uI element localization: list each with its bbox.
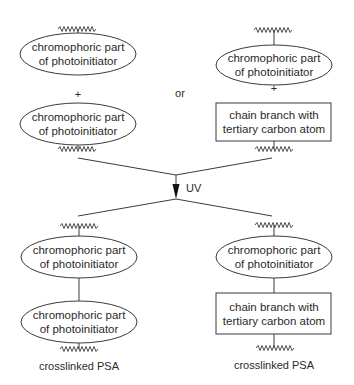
polymer-chain-icon [58, 145, 96, 152]
chromophore-node: chromophoric part of photoinitiator [20, 33, 136, 75]
node-label: chromophoric part [33, 244, 126, 256]
node-label: of photoinitiator [235, 258, 314, 270]
polymer-chain-icon [60, 224, 98, 237]
chain-branch-node: chain branch with tertiary carbon atom [216, 103, 331, 141]
node-label: chromophoric part [32, 41, 125, 53]
node-label: chain branch with [229, 109, 319, 121]
node-label: of photoinitiator [40, 323, 119, 335]
chromophore-node: chromophoric part of photoinitiator [216, 45, 332, 85]
polymer-chain-icon [60, 343, 98, 352]
chromophore-node: chromophoric part of photoinitiator [21, 301, 137, 343]
bottom-left-group: chromophoric part of photoinitiator chro… [21, 224, 137, 373]
top-right-group: chromophoric part of photoinitiator + ch… [216, 28, 332, 152]
chromophore-node: chromophoric part of photoinitiator [21, 236, 137, 278]
node-label: chromophoric part [228, 244, 321, 256]
node-label: chromophoric part [228, 52, 321, 64]
polymer-chain-icon [255, 141, 293, 152]
chromophore-node: chromophoric part of photoinitiator [20, 103, 136, 145]
chromophore-node: chromophoric part of photoinitiator [216, 236, 332, 278]
node-label: chromophoric part [32, 111, 125, 123]
polymer-chain-icon [254, 28, 292, 46]
polymer-chain-icon [58, 27, 96, 34]
polymer-chain-icon [255, 223, 293, 237]
plus-sign: + [75, 88, 81, 100]
polymer-chain-icon [256, 334, 294, 351]
node-label: chromophoric part [33, 309, 126, 321]
node-label: of photoinitiator [39, 55, 118, 67]
plus-sign: + [271, 82, 277, 94]
chain-branch-node: chain branch with tertiary carbon atom [216, 293, 331, 334]
reaction-arrow: UV [78, 158, 272, 216]
node-label: tertiary carbon atom [223, 315, 325, 327]
node-label: of photoinitiator [235, 66, 314, 78]
bottom-right-group: chromophoric part of photoinitiator chai… [216, 223, 332, 372]
crosslinking-diagram: chromophoric part of photoinitiator + ch… [0, 0, 354, 385]
uv-label: UV [186, 182, 202, 194]
result-caption: crosslinked PSA [234, 359, 315, 371]
arrow-down-icon [173, 184, 180, 199]
node-label: tertiary carbon atom [223, 123, 325, 135]
node-label: of photoinitiator [39, 125, 118, 137]
node-label: chain branch with [229, 301, 319, 313]
top-left-group: chromophoric part of photoinitiator + ch… [20, 27, 136, 152]
result-caption: crosslinked PSA [39, 360, 120, 372]
or-separator: or [175, 87, 185, 99]
node-label: of photoinitiator [40, 258, 119, 270]
